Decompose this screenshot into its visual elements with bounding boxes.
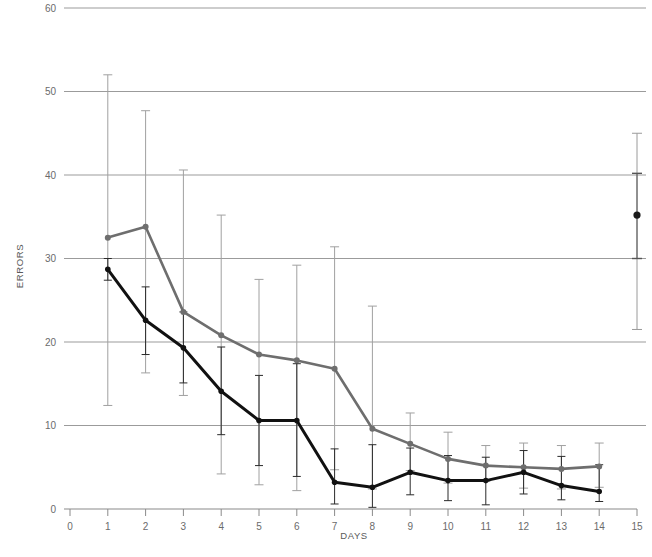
polyline-black-series xyxy=(108,269,599,491)
x-tick-label-14: 14 xyxy=(594,521,606,532)
x-tick-label-10: 10 xyxy=(442,521,454,532)
x-tick-label-12: 12 xyxy=(518,521,530,532)
data-point-gray-series-day-5 xyxy=(256,352,262,358)
data-point-gray-series-day-14 xyxy=(596,463,602,469)
black-series-line xyxy=(108,269,599,491)
x-tick-label-5: 5 xyxy=(256,521,262,532)
day-15-summary-point xyxy=(632,133,642,329)
y-tick-label-30: 30 xyxy=(45,253,57,264)
y-tick-label-50: 50 xyxy=(45,86,57,97)
x-tick-label-2: 2 xyxy=(143,521,149,532)
error-bars-gray-series xyxy=(103,75,603,491)
x-tick-label-6: 6 xyxy=(294,521,300,532)
data-point-gray-series-day-13 xyxy=(558,466,564,472)
x-tick-label-11: 11 xyxy=(481,521,492,532)
data-point-black-series-day-13 xyxy=(559,483,565,489)
data-point-gray-series-day-2 xyxy=(143,224,149,230)
x-axis-title: DAYS xyxy=(340,530,368,541)
data-point-gray-series-day-10 xyxy=(445,456,451,462)
x-tick-label-3: 3 xyxy=(181,521,187,532)
x-tick-label-9: 9 xyxy=(407,521,413,532)
x-tick-label-0: 0 xyxy=(67,521,73,532)
y-tick-label-20: 20 xyxy=(45,337,57,348)
data-point-black-series-day-4 xyxy=(218,388,224,394)
x-tick-label-15: 15 xyxy=(631,521,643,532)
data-point-gray-series-day-3 xyxy=(180,309,186,315)
data-point-gray-series-day-4 xyxy=(218,332,224,338)
errors-vs-days-line-chart: 0102030405060 0123456789101112131415 ERR… xyxy=(0,0,652,557)
data-point-black-series-day-2 xyxy=(143,317,149,323)
error-bars-black-series xyxy=(104,259,603,508)
y-tick-label-10: 10 xyxy=(45,420,57,431)
x-tick-label-4: 4 xyxy=(218,521,224,532)
data-point-gray-series-day-8 xyxy=(369,426,375,432)
y-tick-labels: 0102030405060 xyxy=(45,3,57,515)
gridlines xyxy=(64,8,646,426)
data-point-black-series-day-12 xyxy=(521,469,527,475)
chart-container: 0102030405060 0123456789101112131415 ERR… xyxy=(0,0,652,557)
data-point-black-series-day-9 xyxy=(407,469,413,475)
y-tick-label-40: 40 xyxy=(45,170,57,181)
gray-series-markers xyxy=(105,224,602,472)
data-point-black-series-day-6 xyxy=(294,418,300,424)
day15-marker xyxy=(633,211,640,218)
data-point-black-series-day-10 xyxy=(445,478,451,484)
data-point-black-series-day-8 xyxy=(370,484,376,490)
y-tick-label-0: 0 xyxy=(50,504,56,515)
data-point-black-series-day-5 xyxy=(256,418,262,424)
data-point-gray-series-day-7 xyxy=(332,366,338,372)
y-tick-label-60: 60 xyxy=(45,3,57,14)
data-point-black-series-day-11 xyxy=(483,478,489,484)
x-tick-label-1: 1 xyxy=(105,521,111,532)
data-point-gray-series-day-12 xyxy=(521,464,527,470)
data-point-black-series-day-14 xyxy=(596,489,602,495)
data-point-gray-series-day-6 xyxy=(294,357,300,363)
data-point-black-series-day-3 xyxy=(181,345,187,351)
data-point-gray-series-day-11 xyxy=(483,463,489,469)
data-point-gray-series-day-9 xyxy=(407,441,413,447)
data-point-gray-series-day-1 xyxy=(105,235,111,241)
data-point-black-series-day-7 xyxy=(332,479,338,485)
y-axis-title: ERRORS xyxy=(14,244,25,288)
x-axis-ticks xyxy=(70,509,637,516)
x-tick-label-13: 13 xyxy=(556,521,568,532)
data-point-black-series-day-1 xyxy=(105,267,111,273)
x-tick-label-7: 7 xyxy=(332,521,338,532)
x-tick-label-8: 8 xyxy=(370,521,376,532)
